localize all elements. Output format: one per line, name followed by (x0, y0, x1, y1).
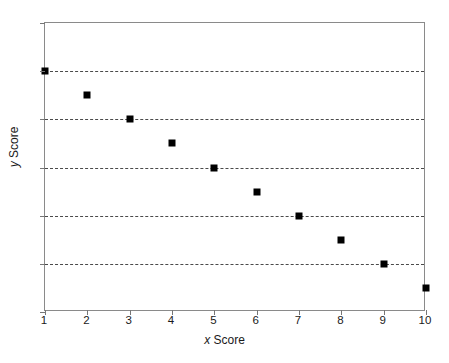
x-axis-title: x Score (0, 333, 449, 347)
x-tick-label: 10 (410, 315, 440, 327)
plot-area: 024681012 (44, 22, 425, 311)
gridline-y-2 (45, 264, 424, 265)
x-tick-label: 8 (325, 315, 355, 327)
data-point (380, 260, 387, 267)
x-tick-label: 6 (241, 315, 271, 327)
y-tick-10 (40, 71, 45, 72)
y-axis-title-variable: y (7, 161, 21, 167)
data-point (84, 92, 91, 99)
data-point (211, 164, 218, 171)
data-point (169, 140, 176, 147)
data-point (296, 212, 303, 219)
data-point (253, 188, 260, 195)
x-tick-label: 7 (283, 315, 313, 327)
gridline-y-8 (45, 119, 424, 120)
gridline-y-6 (45, 168, 424, 169)
x-axis-title-rest: Score (210, 333, 245, 347)
data-point (338, 236, 345, 243)
x-tick-label: 3 (114, 315, 144, 327)
gridline-y-10 (45, 71, 424, 72)
data-point (126, 116, 133, 123)
y-tick-2 (40, 264, 45, 265)
y-tick-12 (40, 23, 45, 24)
y-axis-title: y Score (7, 87, 21, 207)
data-point (423, 284, 430, 291)
scatter-plot-figure: 024681012 12345678910 x Score y Score (0, 0, 449, 363)
y-axis-title-rest: Score (7, 127, 21, 162)
x-tick-label: 5 (198, 315, 228, 327)
y-tick-6 (40, 168, 45, 169)
y-tick-4 (40, 216, 45, 217)
x-tick-label: 1 (29, 315, 59, 327)
x-tick-label: 9 (368, 315, 398, 327)
gridline-y-4 (45, 216, 424, 217)
x-tick-label: 4 (156, 315, 186, 327)
y-tick-8 (40, 119, 45, 120)
x-tick-label: 2 (71, 315, 101, 327)
